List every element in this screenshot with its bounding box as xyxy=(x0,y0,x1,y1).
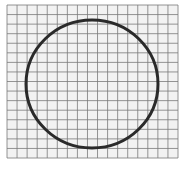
grid-circle-figure xyxy=(0,0,184,175)
